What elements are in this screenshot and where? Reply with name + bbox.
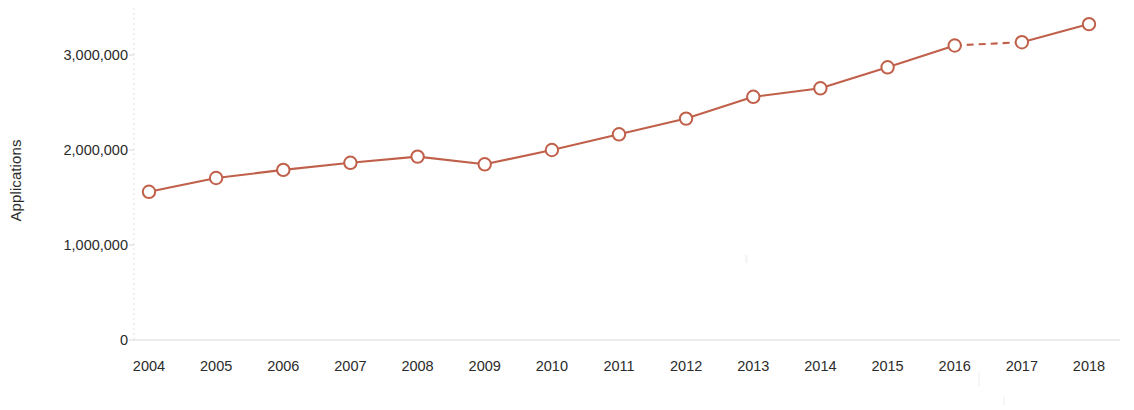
- data-point-marker: 2004: 1,560,000: [143, 186, 155, 198]
- series-line-segment: [1022, 24, 1089, 42]
- data-point-marker: 2013: 2,560,000: [747, 91, 759, 103]
- data-point-marker: 2011: 2,165,000: [613, 128, 625, 140]
- data-point-marker: 2018: 3,325,000: [1083, 18, 1095, 30]
- plot-area: 2004: 1,560,0002005: 1,705,0002006: 1,79…: [0, 0, 1134, 410]
- data-point-marker: 2015: 2,870,000: [881, 61, 893, 73]
- data-point-marker: 2014: 2,650,000: [814, 82, 826, 94]
- data-point-marker: 2006: 1,790,000: [277, 164, 289, 176]
- data-point-marker: 2012: 2,330,000: [680, 112, 692, 124]
- series-line-segment-dashed: [955, 42, 1022, 45]
- data-markers-group: 2004: 1,560,0002005: 1,705,0002006: 1,79…: [143, 18, 1095, 198]
- data-point-marker: 2005: 1,705,000: [210, 172, 222, 184]
- data-point-marker: 2016: 3,100,000: [949, 39, 961, 51]
- data-point-marker: 2010: 2,000,000: [546, 144, 558, 156]
- data-point-marker: 2009: 1,850,000: [479, 158, 491, 170]
- data-point-marker: 2008: 1,930,000: [411, 150, 423, 162]
- data-point-marker: 2017: 3,135,000: [1016, 36, 1028, 48]
- data-point-marker: 2007: 1,865,000: [344, 157, 356, 169]
- series-line-segment: [149, 46, 955, 192]
- data-series-group: [149, 24, 1089, 192]
- line-chart: Applications 01,000,0002,000,0003,000,00…: [0, 0, 1134, 410]
